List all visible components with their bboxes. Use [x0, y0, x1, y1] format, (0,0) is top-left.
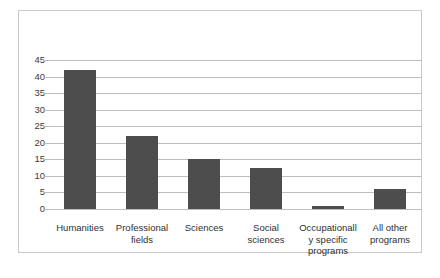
- x-axis-category-label: Humanities: [49, 222, 111, 234]
- chart-frame: 454035302520151050 HumanitiesProfessiona…: [18, 10, 422, 253]
- bar: [312, 206, 345, 209]
- bar: [126, 136, 159, 209]
- y-axis-tick-label: 30: [23, 105, 45, 115]
- bar: [188, 159, 221, 209]
- y-axis-tick-label: 5: [23, 188, 45, 198]
- y-axis-tick-label: 20: [23, 138, 45, 148]
- plot-area: [49, 11, 421, 254]
- y-axis-tick-label: 0: [23, 204, 45, 214]
- x-axis-category-label: Social sciences: [235, 222, 297, 245]
- x-axis-category-label: All other programs: [359, 222, 421, 245]
- y-axis-tick-label: 40: [23, 72, 45, 82]
- bar: [64, 70, 97, 209]
- y-axis: 454035302520151050: [19, 11, 45, 254]
- bar: [374, 189, 407, 209]
- bar: [250, 168, 283, 209]
- x-axis: HumanitiesProfessional fieldsSciencesSoc…: [49, 222, 421, 266]
- y-axis-tick-label: 25: [23, 121, 45, 131]
- chart-plot-wrapper: 454035302520151050 HumanitiesProfessiona…: [19, 11, 423, 254]
- y-axis-tick-label: 15: [23, 155, 45, 165]
- y-axis-tick-label: 45: [23, 55, 45, 65]
- y-axis-tick-label: 10: [23, 171, 45, 181]
- x-axis-category-label: Occupationally specific programs: [297, 222, 359, 257]
- x-axis-category-label: Sciences: [173, 222, 235, 234]
- x-axis-category-label: Professional fields: [111, 222, 173, 245]
- y-axis-tick-label: 35: [23, 88, 45, 98]
- bar-series: [49, 11, 421, 254]
